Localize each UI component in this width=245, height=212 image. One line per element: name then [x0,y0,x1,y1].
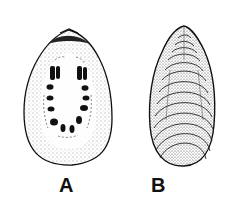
panel-b-exterior-view [150,26,215,166]
panel-label-b: B [151,174,165,197]
panel-a-interior-view [24,29,112,165]
panel-label-a: A [59,174,73,197]
shell-figure [0,0,245,212]
